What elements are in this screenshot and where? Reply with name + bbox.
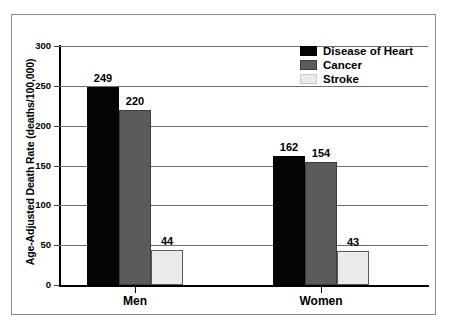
legend-item-cancer: Cancer	[300, 58, 413, 72]
x-axis-category-label-men: Men	[85, 294, 185, 308]
chart-figure: Age-Adjusted Death Rate (deaths/100,000)…	[0, 0, 449, 330]
legend-item-heart: Disease of Heart	[300, 44, 413, 58]
y-axis-tick-mark	[54, 245, 59, 246]
y-axis-tick-label: 150	[21, 161, 51, 171]
legend-item-stroke: Stroke	[300, 72, 413, 86]
y-axis-tick-mark	[54, 46, 59, 47]
bar-men-stroke	[151, 250, 183, 285]
legend-item-label: Stroke	[323, 73, 359, 85]
y-axis-tick-mark	[54, 126, 59, 127]
y-axis-tick-label: 100	[21, 200, 51, 210]
legend-item-label: Cancer	[323, 59, 362, 71]
legend-item-label: Disease of Heart	[323, 45, 413, 57]
y-axis-tick-label: 200	[21, 121, 51, 131]
bar-value-label: 249	[83, 72, 123, 84]
x-axis-category-label-women: Women	[271, 294, 371, 308]
bar-value-label: 220	[115, 95, 155, 107]
y-axis-tick-mark	[54, 166, 59, 167]
x-axis-line	[59, 285, 429, 287]
x-axis-tick-mark	[135, 287, 136, 293]
y-axis-tick-label: 250	[21, 81, 51, 91]
chart-legend: Disease of HeartCancerStroke	[300, 44, 413, 86]
bar-value-label: 43	[333, 236, 373, 248]
legend-swatch-icon-stroke	[300, 74, 317, 84]
legend-swatch-icon-heart	[300, 46, 317, 56]
y-axis-tick-mark	[54, 285, 59, 286]
bar-men-disease-of-heart	[87, 87, 119, 285]
bar-value-label: 44	[147, 235, 187, 247]
bar-women-disease-of-heart	[273, 156, 305, 285]
bar-men-cancer	[119, 110, 151, 285]
bar-women-stroke	[337, 251, 369, 285]
y-axis-tick-mark	[54, 205, 59, 206]
y-axis-tick-label: 300	[21, 41, 51, 51]
y-axis-tick-mark	[54, 86, 59, 87]
legend-swatch-icon-cancer	[300, 60, 317, 70]
y-axis-tick-label: 0	[21, 280, 51, 290]
y-axis-tick-label: 50	[21, 240, 51, 250]
bar-women-cancer	[305, 162, 337, 285]
x-axis-tick-mark	[321, 287, 322, 293]
bar-value-label: 154	[301, 147, 341, 159]
